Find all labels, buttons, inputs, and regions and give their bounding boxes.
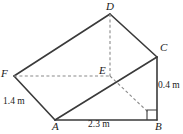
right-angle-square	[147, 110, 157, 120]
vertex-label-f: F	[1, 68, 8, 79]
measure-height-BC: 0.4 m	[158, 80, 180, 90]
edge-D-F	[14, 14, 110, 76]
geometry-figure: ABCDEF 0.4 m1.4 m2.3 m	[0, 0, 183, 134]
edge-A-C	[55, 57, 157, 120]
prism-drawing	[0, 0, 183, 134]
edge-C-D	[110, 14, 157, 57]
vertex-label-d: D	[106, 1, 114, 12]
vertex-label-b: B	[155, 121, 162, 132]
solid-edge-group	[14, 14, 157, 120]
measure-edge-FA: 1.4 m	[3, 96, 25, 106]
edge-E-foot	[110, 76, 148, 112]
vertex-label-c: C	[160, 42, 167, 53]
vertex-label-a: A	[52, 121, 59, 132]
vertex-label-e: E	[99, 65, 106, 76]
right-angle-marker	[147, 110, 157, 120]
measure-edge-AB: 2.3 m	[88, 119, 110, 129]
